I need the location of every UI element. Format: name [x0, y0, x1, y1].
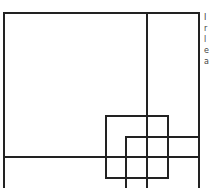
outer-frame: [4, 13, 199, 188]
nested-squares-diagram: [0, 0, 209, 188]
cropped-side-text: I r l e a: [204, 14, 209, 69]
square-b: [126, 137, 199, 188]
text-line: a: [204, 58, 209, 69]
square-a: [106, 116, 168, 178]
